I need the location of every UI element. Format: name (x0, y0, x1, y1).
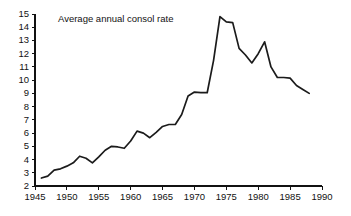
y-tick-label: 2 (24, 180, 29, 191)
x-tick-label: 1970 (184, 191, 205, 202)
y-tick-label: 6 (24, 127, 29, 138)
y-tick-label: 3 (24, 167, 29, 178)
x-tick-label: 1980 (248, 191, 269, 202)
data-series-group (41, 17, 309, 178)
x-tick-label: 1965 (152, 191, 173, 202)
x-tick-label: 1960 (120, 191, 141, 202)
y-tick-label: 10 (18, 74, 29, 85)
y-tick-label: 14 (18, 21, 29, 32)
y-tick-label: 4 (24, 154, 29, 165)
y-tick-label: 7 (24, 114, 29, 125)
y-tick-label: 8 (24, 101, 29, 112)
x-tick-label: 1945 (24, 191, 45, 202)
y-tick-label: 5 (24, 140, 29, 151)
x-tick-label: 1985 (280, 191, 301, 202)
x-tick-label: 1975 (216, 191, 237, 202)
x-tick-label: 1955 (88, 191, 109, 202)
y-tick-label: 13 (18, 34, 29, 45)
chart-container: 23456789101112131415 1945195019551960196… (0, 0, 351, 216)
y-tick-label: 12 (18, 48, 29, 59)
x-tick-label: 1990 (311, 191, 332, 202)
y-tick-label: 9 (24, 87, 29, 98)
x-axis: 1945195019551960196519701975198019851990 (24, 186, 332, 202)
x-tick-label: 1950 (56, 191, 77, 202)
chart-title: Average annual consol rate (58, 13, 174, 24)
y-tick-label: 15 (18, 8, 29, 19)
y-tick-label: 11 (19, 61, 29, 72)
y-axis: 23456789101112131415 (18, 8, 35, 191)
consol-rate-line-chart: 23456789101112131415 1945195019551960196… (0, 0, 351, 216)
series-line-consol-rate (41, 17, 309, 178)
